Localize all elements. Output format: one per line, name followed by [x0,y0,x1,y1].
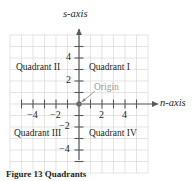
x-tick-neg2-text: −2 [50,109,61,120]
y-tick-pos4-text: 4 [66,51,71,62]
y-tick-label-neg2: −2 [59,121,70,131]
y-tick-label-pos4: 4 [66,52,71,62]
quadrant-4-text: Quadrant IV [89,128,137,138]
y-tick-neg4-text: −4 [59,143,70,154]
x-axis-label: n-axis [160,98,186,109]
y-tick-neg2-text: −2 [59,120,70,131]
origin-point-marker [76,101,81,106]
x-tick-neg4-text: −4 [27,109,38,120]
quadrant-3-text: Quadrant III [14,128,61,138]
figure-caption-text: Figure 13 Quadrants [6,169,86,179]
x-axis-label-text: n-axis [160,97,186,108]
quadrant-4-label: Quadrant IV [89,129,137,139]
origin-label-text: Origin [94,82,119,92]
quadrant-2-label: Quadrant II [16,63,60,73]
x-tick-label-neg2: −2 [50,110,61,120]
y-axis-label-text: s-axis [63,8,88,19]
x-tick-label-pos2: 2 [99,110,104,120]
x-tick-label-neg4: −4 [27,110,38,120]
coordinate-plane-figure: s-axis n-axis Quadrant II Quadrant I Qua… [0,0,194,181]
origin-label: Origin [94,83,119,93]
quadrant-1-text: Quadrant I [89,62,130,72]
y-axis-label: s-axis [63,9,88,20]
y-tick-label-neg4: −4 [59,144,70,154]
x-tick-label-pos4: 4 [122,110,127,120]
y-tick-label-pos2: 2 [66,75,71,85]
y-tick-pos2-text: 2 [66,74,71,85]
x-tick-pos4-text: 4 [122,109,127,120]
figure-caption: Figure 13 Quadrants [6,169,192,181]
quadrant-1-label: Quadrant I [89,63,130,73]
quadrant-2-text: Quadrant II [16,62,60,72]
quadrant-3-label: Quadrant III [14,129,61,139]
x-tick-pos2-text: 2 [99,109,104,120]
